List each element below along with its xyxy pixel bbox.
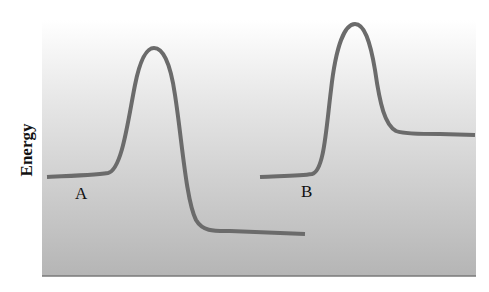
energy-diagram-canvas	[0, 0, 489, 292]
plot-panel	[42, 20, 476, 276]
curve-label-a: A	[75, 184, 87, 204]
curve-label-b: B	[301, 182, 312, 202]
energy-diagram: Energy A B	[0, 0, 489, 292]
y-axis-label: Energy	[17, 124, 37, 177]
